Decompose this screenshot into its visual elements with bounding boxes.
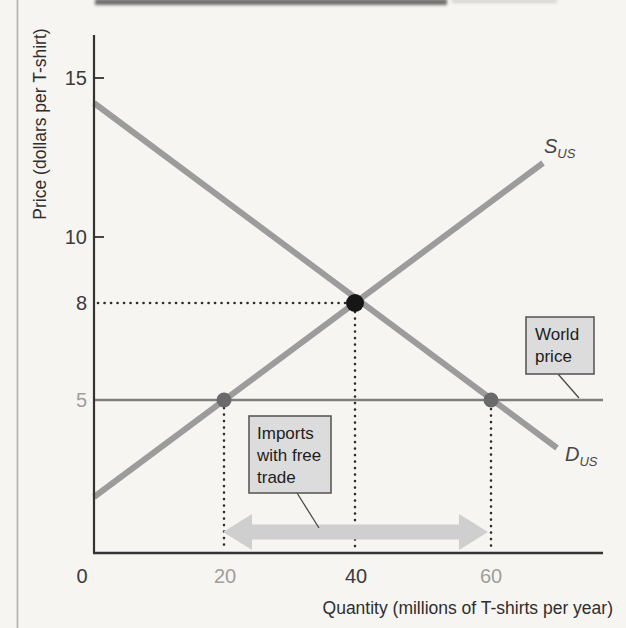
textbook-figure-imports-with-free-trade: 15 10 8 5 0 20 40 60 Price (dollars per … [0, 0, 626, 628]
supply-label-sub: US [557, 146, 575, 161]
imports-callout-line1: Imports [257, 424, 314, 443]
x-tick-label-0: 0 [76, 565, 87, 587]
world-price-callout-line1: World [535, 325, 579, 344]
x-tick-label-20: 20 [214, 565, 236, 587]
world-price-callout-leader [558, 374, 579, 398]
y-tick-label-10: 10 [65, 226, 87, 248]
supply-curve-label: SUS [544, 135, 576, 161]
supply-label-main: S [544, 135, 558, 157]
x-tick-label-40: 40 [345, 565, 367, 587]
imports-callout: Imports with free trade [249, 416, 331, 528]
y-axis-title: Price (dollars per T-shirt) [30, 28, 50, 219]
equilibrium-point [346, 294, 364, 312]
imports-callout-line2: with free [256, 446, 321, 465]
y-tick-label-8: 8 [76, 292, 87, 314]
x-axis-title: Quantity (millions of T-shirts per year) [323, 598, 613, 618]
world-price-demand-point [484, 393, 499, 408]
scan-smudge-top [95, 0, 557, 5]
y-tick-label-5: 5 [76, 389, 87, 411]
demand-curve-label: DUS [565, 443, 598, 469]
world-price-callout: World price [526, 317, 594, 398]
y-tick-label-15: 15 [65, 67, 87, 89]
demand-label-main: D [565, 443, 579, 465]
world-price-callout-line2: price [535, 347, 572, 366]
imports-callout-line3: trade [257, 468, 296, 487]
demand-label-sub: US [579, 454, 597, 469]
imports-callout-leader [297, 493, 319, 528]
x-tick-label-60: 60 [480, 565, 502, 587]
world-price-supply-point [217, 393, 232, 408]
